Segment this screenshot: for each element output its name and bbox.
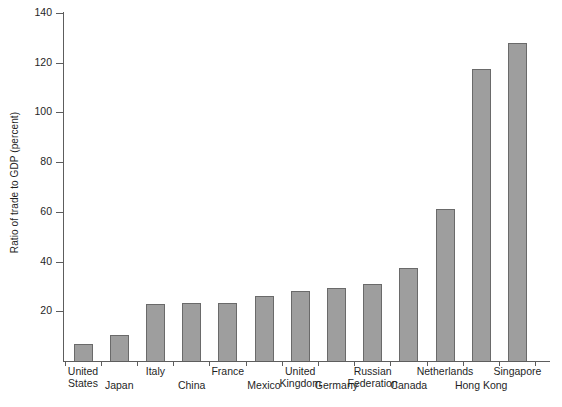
y-tick-label-wrap: 100 bbox=[14, 112, 52, 113]
bar bbox=[255, 296, 274, 361]
y-tick-mark bbox=[56, 162, 63, 163]
y-tick-label: 140 bbox=[16, 6, 52, 18]
y-tick-mark bbox=[56, 63, 63, 64]
y-tick-label-wrap: 20 bbox=[14, 311, 52, 312]
y-tick-mark bbox=[56, 262, 63, 263]
bar-chart: Ratio of trade to GDP (percent) 20406080… bbox=[0, 0, 562, 407]
y-tick-mark bbox=[56, 212, 63, 213]
bar bbox=[327, 288, 346, 361]
y-tick-label-wrap: 80 bbox=[14, 162, 52, 163]
bar bbox=[146, 304, 165, 361]
y-tick-label: 120 bbox=[16, 56, 52, 68]
y-tick-label-wrap: 120 bbox=[14, 63, 52, 64]
bar bbox=[508, 43, 527, 361]
y-tick-label: 100 bbox=[16, 105, 52, 117]
bar bbox=[436, 209, 455, 361]
y-tick-mark bbox=[56, 112, 63, 113]
bar bbox=[291, 291, 310, 361]
x-axis-label: Hong Kong bbox=[438, 380, 524, 392]
bar bbox=[363, 284, 382, 361]
y-axis-line bbox=[63, 12, 64, 362]
y-tick-label-wrap: 40 bbox=[14, 262, 52, 263]
bar bbox=[182, 303, 201, 361]
y-tick-mark bbox=[56, 311, 63, 312]
y-tick-mark bbox=[56, 13, 63, 14]
x-axis-label: Singapore bbox=[474, 366, 560, 378]
y-tick-label: 40 bbox=[16, 255, 52, 267]
y-tick-label-wrap: 60 bbox=[14, 212, 52, 213]
bar bbox=[399, 268, 418, 361]
y-tick-label: 60 bbox=[16, 205, 52, 217]
bar bbox=[472, 69, 491, 361]
y-tick-label: 20 bbox=[16, 304, 52, 316]
y-tick-label: 80 bbox=[16, 155, 52, 167]
y-tick-label-wrap: 140 bbox=[14, 13, 52, 14]
bar bbox=[110, 335, 129, 361]
bar bbox=[74, 344, 93, 361]
bar bbox=[218, 303, 237, 361]
